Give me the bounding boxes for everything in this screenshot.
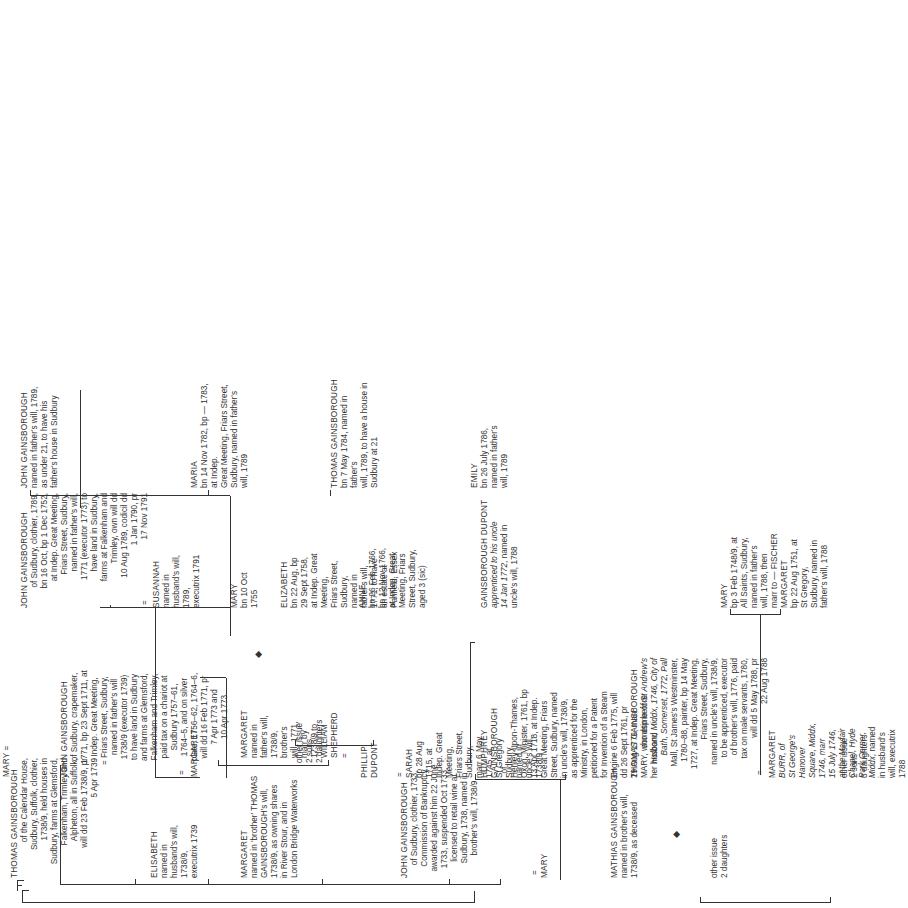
person-details: of Sudbury, clothier, 1789, bn 16 Oct, b… (30, 493, 150, 608)
marriage-symbol: = (755, 770, 765, 775)
person-name: EMILY (470, 408, 480, 488)
person-name: JOHN GAINSBOROUGH (20, 368, 30, 488)
person-details: bn 26 Feb 1766, bp 12 Nov 1766, at Indep… (368, 538, 428, 608)
person-details: named in father's will, 1789, as under 2… (30, 368, 60, 488)
person-mary-1755: MARY bn 10 Oct 1755 (230, 563, 260, 608)
connector (449, 879, 450, 885)
connector (208, 879, 209, 885)
connector (730, 609, 731, 615)
connector (475, 779, 565, 780)
person-name: MARGARET (240, 738, 250, 878)
connector (470, 642, 475, 643)
person-name: MARY (540, 854, 550, 878)
connector (830, 897, 831, 903)
person-john-gainsborough-clothier-1733: JOHN GAINSBOROUGH of Sudbury, clothier, … (400, 758, 480, 878)
connector (22, 891, 23, 903)
person-thomas-gainsborough-1784: THOMAS GAINSBOROUGH bn 7 May 1784, named… (330, 368, 380, 488)
dsp-diamond-icon: ◆ (672, 831, 681, 838)
other-issue-label: other issue (295, 693, 305, 763)
person-name: MARY (230, 563, 240, 608)
person-details: bn 26 July 1786, named in father's will,… (480, 408, 510, 488)
person-mary-w1: MARY = (2, 746, 12, 777)
person-mary-w3: MARY (540, 854, 550, 878)
person-details: named in brother's will, 1738/9, as dece… (620, 768, 640, 878)
person-name: PHILLIP DUPONT (360, 738, 380, 778)
person-details: named in 'brother' THOMAS GAINSBOROUGH's… (250, 738, 300, 878)
other-issue-crapemaker: other issue 2 sons 2 daughters (295, 693, 325, 763)
connector (17, 880, 24, 881)
person-mary-fischer: MARY bp 3 Feb 1748/9, at All Saints, Sud… (720, 523, 780, 608)
person-mathias-gainsborough: MATHIAS GAINSBOROUGH named in brother's … (610, 768, 640, 878)
connector (700, 897, 701, 903)
person-name: ANNE (358, 538, 368, 608)
connector (80, 390, 81, 508)
marriage-symbol: = (140, 600, 150, 605)
person-name: JOHN GAINSBOROUGH (400, 758, 410, 878)
person-details: of Sudbury, crapemaker, 1771, bp 23 Sept… (70, 657, 230, 777)
connector (60, 884, 500, 885)
person-margaret-sister: MARGARET named in 'brother' THOMAS GAINS… (240, 738, 300, 878)
person-john-gainsborough-clothier-1789: JOHN GAINSBOROUGH of Sudbury, clothier, … (20, 493, 150, 608)
connector (474, 891, 475, 903)
person-name: SUSANNAH (152, 538, 162, 608)
person-anne: ANNE bn 26 Feb 1766, bp 12 Nov 1766, at … (358, 538, 428, 608)
marriage-symbol: = (2, 746, 11, 751)
person-name: ELIZABETH (280, 538, 290, 608)
person-name: JOHN GAINSBOROUGH (20, 493, 30, 608)
person-name: MATHIAS GAINSBOROUGH (610, 768, 620, 878)
person-details: bp 3 Feb 1748/9, at All Saints, Sudbury,… (730, 523, 780, 608)
person-details: named in husband's will, 1738/9, executr… (160, 798, 200, 878)
person-thomas-gainsborough-painter: THOMAS GAINSBOROUGH sometime of St Andre… (630, 658, 770, 778)
person-phillip-dupont: PHILLIP DUPONT (360, 738, 380, 778)
person-details: bp 22 Aug 1751, at St Gregory, Sudbury, … (790, 523, 830, 608)
person-susannah: SUSANNAH named in husband's will, 1789, … (152, 538, 202, 608)
other-issue-detail: 2 sons 2 daughters (305, 693, 325, 763)
connector (700, 902, 830, 903)
person-emily: EMILY bn 26 July 1786, named in father's… (470, 408, 510, 488)
connector (155, 777, 200, 778)
other-issue-painter-siblings: other issue 2 sons 3 daughters (840, 718, 870, 778)
person-name: MARY (2, 753, 11, 777)
connector (328, 760, 329, 766)
person-name: THOMAS GAINSBOROUGH (330, 368, 340, 488)
person-details: bn 10 Oct 1755 (240, 563, 260, 608)
connector (730, 614, 780, 615)
person-name: JOHN GAINSBOROUGH (60, 657, 70, 777)
person-name: MARIA (190, 378, 200, 488)
person-details: sometime of St Andrew's Holborn, Middx, … (640, 658, 770, 778)
person-maria: MARIA bn 14 Nov 1782, bp — 1783, at Inde… (190, 378, 250, 488)
person-margaret-w2: MARGARET (190, 729, 200, 777)
other-issue-detail: 2 daughters (720, 818, 730, 878)
person-name: ELISABETH (150, 798, 160, 878)
person-details: named in husband's will, 1789, executrix… (162, 538, 202, 608)
connector (560, 780, 561, 880)
person-name: MARGARET (240, 698, 250, 758)
person-john-gainsborough-crapemaker: JOHN GAINSBOROUGH of Sudbury, crapemaker… (60, 657, 230, 777)
other-issue-detail: 2 sons 3 daughters (850, 718, 870, 778)
person-details: of Sudbury, clothier, 1733, Commission o… (410, 758, 480, 878)
person-details: apprenticed to his uncle 14 Jan 1772, na… (490, 498, 520, 608)
person-name: MARGARET (190, 729, 200, 777)
marriage-symbol: = (177, 770, 187, 775)
person-details: bn 14 Nov 1782, bp — 1783, at Indep. Gre… (200, 378, 250, 488)
person-gainsborough-dupont: GAINSBOROUGH DUPONT apprenticed to his u… (480, 498, 520, 608)
person-name: MARY (720, 523, 730, 608)
connector (208, 490, 209, 496)
connector (22, 902, 474, 903)
person-name: MARGARET (768, 708, 778, 778)
person-name: GAINSBOROUGH DUPONT (480, 498, 490, 608)
other-issue-label: other issue (840, 718, 850, 778)
person-margaret-burr: MARGARET BURR, of St George's Hanover Sq… (768, 708, 908, 778)
connector (17, 881, 18, 891)
other-issue-gen1-b: other issue 2 daughters (710, 818, 730, 878)
connector (135, 879, 136, 885)
connector (330, 490, 331, 496)
other-issue-label: other issue (710, 818, 720, 878)
dsp-diamond-icon: ◆ (254, 651, 263, 658)
person-john-gainsborough-minor: JOHN GAINSBOROUGH named in father's will… (20, 368, 60, 488)
connector (322, 879, 323, 885)
person-details: bn 7 May 1784, named in father's will, 1… (340, 368, 380, 488)
person-margaret-1751: MARGARET bp 22 Aug 1751, at St Gregory, … (780, 523, 830, 608)
person-elisabeth: ELISABETH named in husband's will, 1738/… (150, 798, 200, 878)
